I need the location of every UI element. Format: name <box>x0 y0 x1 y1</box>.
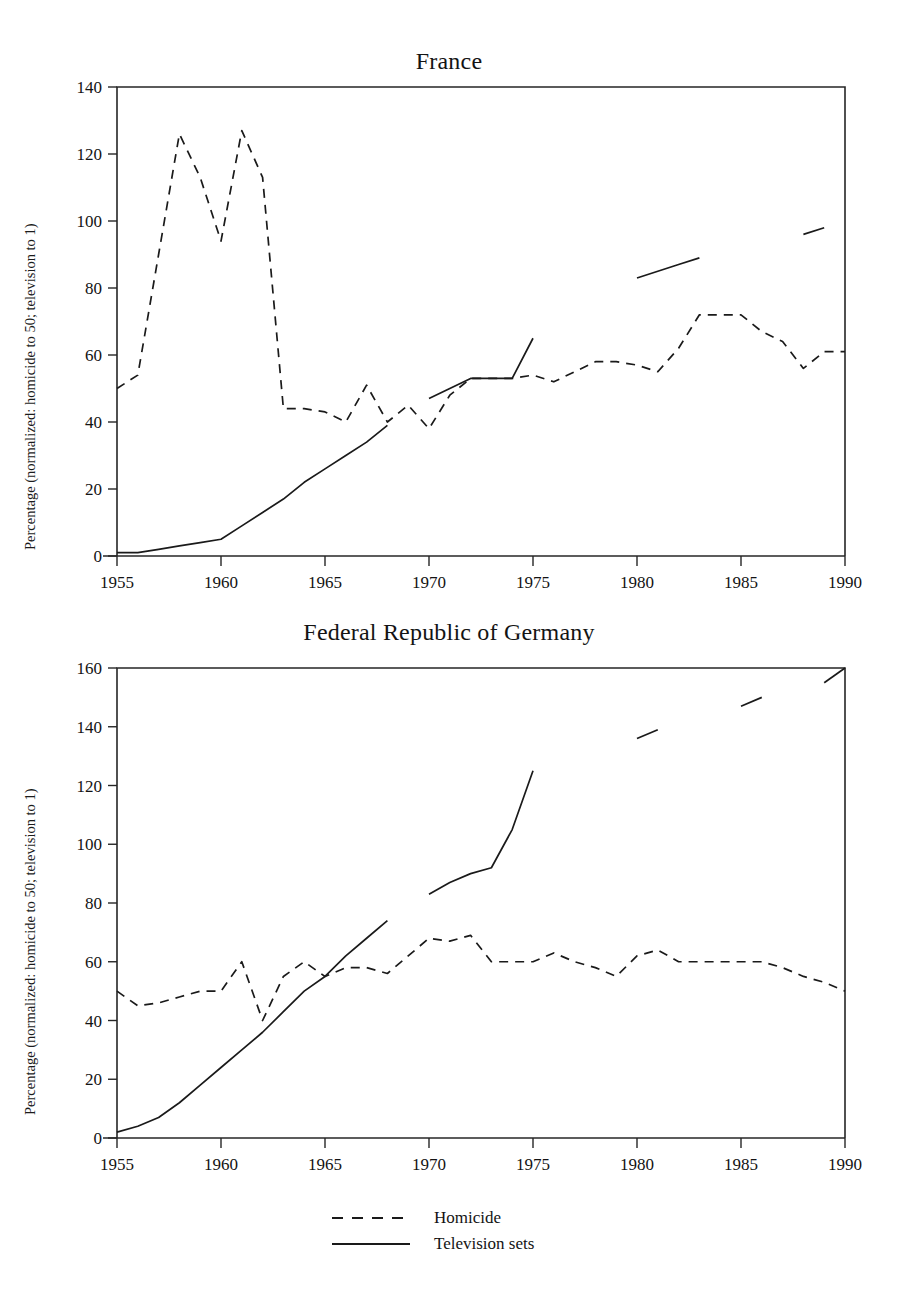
svg-text:1965: 1965 <box>308 1155 342 1174</box>
series-path <box>824 668 845 683</box>
svg-text:1970: 1970 <box>412 1155 446 1174</box>
svg-text:140: 140 <box>77 718 103 737</box>
plot-area-germany: 0204060801001201401601955196019651970197… <box>0 615 898 1175</box>
plot-area-france: 0204060801001201401955196019651970197519… <box>0 40 898 600</box>
svg-text:0: 0 <box>94 1129 103 1148</box>
chart-panel-germany: Federal Republic of Germany Percentage (… <box>0 615 898 1175</box>
svg-text:80: 80 <box>85 279 102 298</box>
svg-text:1975: 1975 <box>516 1155 550 1174</box>
svg-text:1985: 1985 <box>724 1155 758 1174</box>
legend-entry-homicide: Homicide <box>0 1205 898 1231</box>
series-path <box>117 131 845 429</box>
svg-text:1980: 1980 <box>620 573 654 592</box>
figure-legend: Homicide Television sets <box>0 1205 898 1257</box>
dashed-line-swatch <box>330 1211 412 1225</box>
svg-text:1955: 1955 <box>100 1155 134 1174</box>
series-path <box>429 771 533 894</box>
svg-text:20: 20 <box>85 480 102 499</box>
svg-text:1990: 1990 <box>828 573 862 592</box>
chart-title-france: France <box>0 48 898 75</box>
svg-text:80: 80 <box>85 894 102 913</box>
svg-text:0: 0 <box>94 547 103 566</box>
svg-text:120: 120 <box>77 777 103 796</box>
series-path <box>117 935 845 1020</box>
solid-line-swatch <box>330 1237 412 1251</box>
y-axis-label-germany: Percentage (normalized: homicide to 50; … <box>22 788 39 1115</box>
svg-text:100: 100 <box>77 835 103 854</box>
svg-text:1960: 1960 <box>204 573 238 592</box>
series-path <box>429 338 533 398</box>
svg-text:1970: 1970 <box>412 573 446 592</box>
svg-text:1975: 1975 <box>516 573 550 592</box>
svg-text:100: 100 <box>77 212 103 231</box>
svg-text:60: 60 <box>85 953 102 972</box>
legend-label-homicide: Homicide <box>434 1208 501 1228</box>
y-axis-label-france: Percentage (normalized: homicide to 50; … <box>22 223 39 550</box>
svg-text:20: 20 <box>85 1070 102 1089</box>
svg-text:140: 140 <box>77 78 103 97</box>
svg-text:1990: 1990 <box>828 1155 862 1174</box>
figure-page: France Percentage (normalized: homicide … <box>0 0 898 1311</box>
series-path <box>741 697 762 706</box>
svg-text:60: 60 <box>85 346 102 365</box>
svg-text:160: 160 <box>77 659 103 678</box>
svg-text:1960: 1960 <box>204 1155 238 1174</box>
svg-text:120: 120 <box>77 145 103 164</box>
series-path <box>117 921 387 1133</box>
series-path <box>803 228 824 235</box>
chart-panel-france: France Percentage (normalized: homicide … <box>0 40 898 600</box>
svg-text:1985: 1985 <box>724 573 758 592</box>
chart-title-germany: Federal Republic of Germany <box>0 619 898 646</box>
series-path <box>637 258 699 278</box>
legend-entry-television-sets: Television sets <box>0 1231 898 1257</box>
svg-text:1980: 1980 <box>620 1155 654 1174</box>
svg-text:1955: 1955 <box>100 573 134 592</box>
svg-text:40: 40 <box>85 1012 102 1031</box>
series-path <box>637 730 658 739</box>
svg-text:1965: 1965 <box>308 573 342 592</box>
svg-text:40: 40 <box>85 413 102 432</box>
series-path <box>117 425 387 552</box>
legend-label-television-sets: Television sets <box>434 1234 534 1254</box>
